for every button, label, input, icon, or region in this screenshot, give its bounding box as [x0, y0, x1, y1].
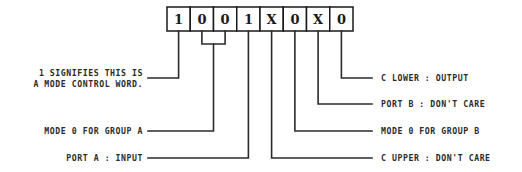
- leader-line-c-lower-output: [341, 31, 372, 78]
- label-c-upper-dont-care: C UPPER : DON'T CARE: [381, 153, 491, 163]
- diagram-canvas: 1 0 0 1 X 0 X 0 1 SIGNIFIES THIS IS A MO…: [0, 0, 522, 172]
- label-port-b-dont-care: PORT B : DON'T CARE: [381, 99, 485, 109]
- right-annotations: C LOWER : OUTPUT PORT B : DON'T CARE MOD…: [381, 73, 491, 163]
- leader-bracket-group-a: [202, 31, 225, 44]
- bit-value-6: X: [313, 12, 324, 27]
- label-c-lower-output: C LOWER : OUTPUT: [381, 73, 469, 83]
- bit-box-row: 1 0 0 1 X 0 X 0: [167, 7, 353, 31]
- leader-line-c-upper-dont-care: [272, 31, 372, 158]
- label-mode-control-word-line1: 1 SIGNIFIES THIS IS: [39, 68, 143, 78]
- mode-control-word-diagram: 1 0 0 1 X 0 X 0 1 SIGNIFIES THIS IS A MO…: [0, 0, 522, 172]
- leader-line-mode-0-group-a: [148, 44, 214, 131]
- bit-value-1: 0: [197, 12, 206, 27]
- leader-line-port-a-input: [148, 31, 248, 158]
- leader-line-mode-control-word: [148, 31, 179, 78]
- left-annotations: 1 SIGNIFIES THIS IS A MODE CONTROL WORD.…: [33, 68, 143, 164]
- bit-value-3: 1: [244, 12, 253, 27]
- bit-value-5: 0: [290, 12, 299, 27]
- bit-value-7: 0: [337, 12, 346, 27]
- label-mode-0-group-a: MODE 0 FOR GROUP A: [44, 126, 143, 136]
- bit-value-4: X: [267, 12, 278, 27]
- bit-value-2: 0: [221, 12, 230, 27]
- bit-value-0: 1: [174, 12, 183, 27]
- label-port-a-input: PORT A : INPUT: [66, 153, 143, 163]
- label-mode-control-word-line2: A MODE CONTROL WORD.: [33, 79, 143, 89]
- label-mode-0-group-b: MODE 0 FOR GROUP B: [381, 126, 480, 136]
- leader-line-port-b-dont-care: [318, 31, 372, 104]
- leader-line-mode-0-group-b: [295, 31, 372, 131]
